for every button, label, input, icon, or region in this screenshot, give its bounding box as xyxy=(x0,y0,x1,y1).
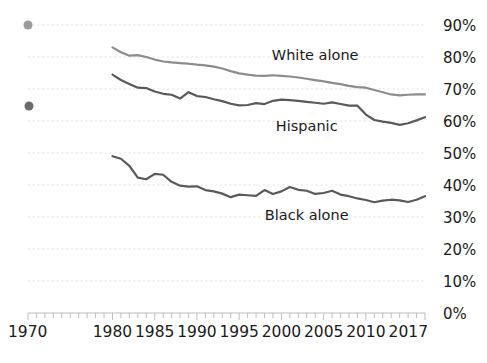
series-label-black-alone: Black alone xyxy=(265,207,349,223)
y-tick-label-90%: 90% xyxy=(443,17,476,35)
y-axis-tick-labels: 0%10%20%30%40%50%60%70%80%90% xyxy=(443,17,476,323)
chart-canvas: 0%10%20%30%40%50%60%70%80%90% 1970198019… xyxy=(0,0,487,363)
x-tick-label-2017: 2017 xyxy=(389,323,428,341)
marker-dot-lower-dot xyxy=(25,102,34,111)
gridlines-group xyxy=(28,25,425,281)
y-tick-label-80%: 80% xyxy=(443,49,476,67)
x-tick-label-2005: 2005 xyxy=(304,323,343,341)
y-tick-label-70%: 70% xyxy=(443,81,476,99)
x-axis xyxy=(28,313,425,320)
homeownership-rate-chart: 0%10%20%30%40%50%60%70%80%90% 1970198019… xyxy=(0,0,487,363)
series-line-black-alone xyxy=(112,156,425,202)
y-tick-label-20%: 20% xyxy=(443,241,476,259)
series-line-white-alone xyxy=(112,47,425,95)
x-axis-tick-labels: 197019801985199019952000200520102017 xyxy=(8,323,428,341)
y-tick-label-30%: 30% xyxy=(443,209,476,227)
x-tick-label-1970: 1970 xyxy=(8,323,47,341)
x-tick-label-1995: 1995 xyxy=(219,323,258,341)
y-tick-label-10%: 10% xyxy=(443,273,476,291)
left-markers-group xyxy=(24,21,34,111)
marker-dot-upper-dot xyxy=(24,21,33,30)
x-tick-label-1985: 1985 xyxy=(135,323,174,341)
series-label-white-alone: White alone xyxy=(272,47,359,63)
y-tick-label-50%: 50% xyxy=(443,145,476,163)
series-label-hispanic: Hispanic xyxy=(276,118,338,134)
series-lines-group xyxy=(112,47,425,202)
series-annotations-group: White aloneHispanicBlack alone xyxy=(265,47,359,223)
x-tick-label-1990: 1990 xyxy=(177,323,216,341)
x-tick-label-2000: 2000 xyxy=(262,323,301,341)
y-tick-label-40%: 40% xyxy=(443,177,476,195)
x-tick-label-2010: 2010 xyxy=(346,323,385,341)
series-line-hispanic xyxy=(112,75,425,125)
y-tick-label-0%: 0% xyxy=(443,305,467,323)
y-tick-label-60%: 60% xyxy=(443,113,476,131)
x-tick-label-1980: 1980 xyxy=(93,323,132,341)
